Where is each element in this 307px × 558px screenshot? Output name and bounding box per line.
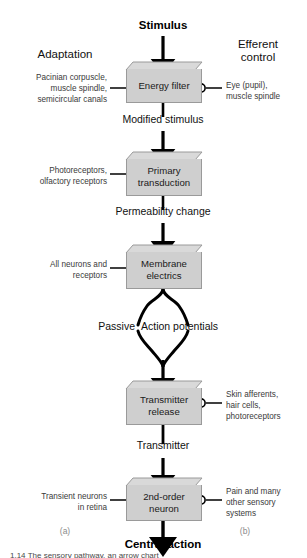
box-face-second-order-neuron: 2nd-order neuron	[126, 485, 202, 521]
figure-caption: 1.14 The sensory pathway, an arrow chart	[10, 551, 297, 558]
flow-label-transmitter: Transmitter	[103, 439, 223, 451]
box-label-energy-filter: Energy filter	[138, 80, 189, 92]
box-face-primary-transduction: Primary transduction	[126, 159, 202, 196]
annotation-transmitter-release-right: Skin afferents, hair cells, photorecepto…	[226, 390, 306, 422]
box-face-energy-filter: Energy filter	[126, 69, 202, 103]
annotation-energy-filter-right: Eye (pupil), muscle spindle	[226, 81, 306, 103]
flow-label-modified-stimulus: Modified stimulus	[93, 113, 233, 125]
box-face-membrane-electrics: Membrane electrics	[126, 252, 202, 289]
panel-letter-b: (b)	[225, 527, 265, 537]
annotation-second-order-neuron-right: Pain and many other sensory systems	[226, 487, 306, 519]
box-label-membrane-electrics: Membrane electrics	[141, 258, 187, 282]
flow-label-permeability-change: Permeability change	[83, 205, 243, 217]
sensory-pathway-flow-diagram: Adaptation Efferent control Stimulus Cen…	[0, 0, 307, 558]
box-face-transmitter-release: Transmitter release	[126, 388, 202, 425]
box-energy-filter[interactable]: Energy filter	[126, 62, 202, 103]
annotation-energy-filter-left: Pacinian corpuscle, muscle spindle, semi…	[4, 73, 107, 105]
column-header-efferent-control: Efferent control	[215, 38, 301, 64]
box-label-transmitter-release: Transmitter release	[140, 394, 188, 418]
box-label-second-order-neuron: 2nd-order neuron	[143, 491, 185, 515]
box-primary-transduction[interactable]: Primary transduction	[126, 152, 202, 196]
annotation-membrane-electrics-left: All neurons and receptors	[4, 260, 107, 282]
column-header-adaptation: Adaptation	[10, 48, 120, 61]
central-action-label: Central action	[93, 538, 233, 551]
flow-label-passive: Passive	[48, 320, 135, 332]
box-transmitter-release[interactable]: Transmitter release	[126, 381, 202, 425]
box-membrane-electrics[interactable]: Membrane electrics	[126, 245, 202, 289]
arrow-branch-passive-action-potentials	[138, 289, 188, 381]
box-label-primary-transduction: Primary transduction	[138, 165, 190, 189]
panel-letter-a: (a)	[45, 527, 85, 537]
stimulus-label: Stimulus	[103, 19, 223, 32]
annotation-primary-transduction-left: Photoreceptors, olfactory receptors	[4, 166, 107, 188]
flow-label-action-potentials: Action potentials	[141, 320, 271, 332]
annotation-second-order-neuron-left: Transient neurons in retina	[4, 492, 107, 514]
box-second-order-neuron[interactable]: 2nd-order neuron	[126, 478, 202, 521]
